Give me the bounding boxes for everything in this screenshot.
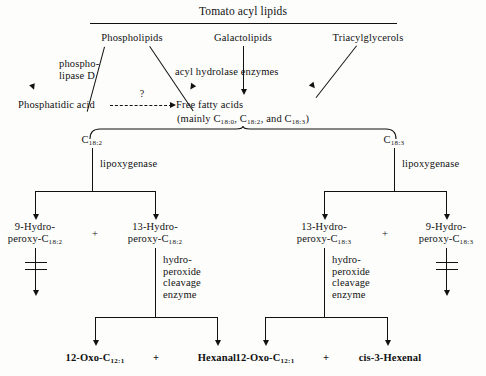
arrowhead-ffa-center (241, 89, 247, 95)
plus-sign-left: + (92, 228, 98, 239)
final-product-hexanal: Hexanal (198, 352, 236, 363)
enzyme-hydroperoxide-cleavage-left: hydro- peroxide cleavage enzyme (163, 254, 201, 300)
final-product-12-oxo-right: 12-Oxo-C12:1 (236, 352, 295, 367)
unknown-step-marker: ? (140, 88, 145, 99)
ffa-sub-2: 18:2 (247, 118, 261, 126)
bottom-bracket-right-down-1 (265, 317, 266, 342)
blocked-path-left-strike-1 (25, 262, 47, 263)
bracket-left-down-9 (35, 191, 36, 216)
enzyme-hydroperoxide-cleavage-right: hydro- peroxide cleavage enzyme (332, 254, 370, 300)
title-rule (90, 23, 397, 24)
ffa-detail-mid1: , C (234, 113, 247, 124)
split-brace (88, 126, 398, 140)
hp4-sub: 18:3 (460, 238, 474, 246)
arrowhead-9-hydroperoxy-c18-2 (33, 214, 39, 220)
diagram-title: Tomato acyl lipids (199, 6, 287, 17)
cis-prefix: cis (359, 352, 371, 363)
oxo-left-sub: 12:1 (110, 357, 124, 365)
oxo-left-prefix: 12-Oxo-C (66, 352, 111, 363)
arrowhead-9-hydroperoxy-c18-3 (444, 214, 450, 220)
product-9-hydroperoxy-c18-2: 9-Hydro- peroxy-C18:2 (8, 221, 63, 248)
hexenal-rest: -3-Hexenal (371, 352, 422, 363)
hp2-line1: 13-Hydro- (132, 221, 178, 232)
bottom-bracket-left-horizontal (95, 317, 217, 318)
arrowhead-ffa-right (309, 82, 317, 90)
arrowhead-cis-3-hexenal (385, 340, 391, 346)
ffa-detail-suffix: ) (305, 113, 309, 124)
arrowhead-13-hydroperoxy-c18-2 (153, 214, 159, 220)
blocked-path-left-strike-2 (25, 269, 47, 270)
metabolite-phosphatidic-acid: Phosphatidic acid (18, 99, 95, 110)
substrate-right-sub: 18:3 (391, 139, 405, 147)
stem-right-lipoxygenase (394, 148, 395, 192)
substrate-c18-3: C18:3 (384, 134, 405, 149)
blocked-path-right-strike-2 (436, 269, 458, 270)
enzyme-acyl-hydrolase: acyl hydrolase enzymes (175, 66, 279, 77)
bracket-right-down-9 (446, 191, 447, 216)
bottom-bracket-right-horizontal (265, 317, 387, 318)
final-product-cis-3-hexenal: cis-3-Hexenal (359, 352, 422, 363)
enzyme-lipoxygenase-left: lipoxygenase (100, 158, 157, 169)
bracket-left-horizontal (35, 191, 155, 192)
hp1-sub: 18:2 (49, 238, 63, 246)
arrowhead-phosphatidic (29, 83, 37, 91)
final-product-12-oxo-left: 12-Oxo-C12:1 (66, 352, 125, 367)
enzyme-phospholipase-d: phospho- lipase D (59, 58, 99, 81)
blocked-path-right-arrowhead (444, 290, 450, 296)
arrow-triacylglycerols-to-ffa (316, 45, 357, 98)
stem-right-cleavage (324, 248, 325, 318)
hp1-line1: 9-Hydro- (15, 221, 55, 232)
stem-left-cleavage (155, 248, 156, 318)
bracket-left-down-13 (155, 191, 156, 216)
hp1-line2: peroxy-C (8, 233, 49, 244)
bracket-right-horizontal (324, 191, 446, 192)
lipid-class-triacylglycerols: Triacylglycerols (333, 32, 404, 43)
ffa-sub-1: 18:0 (221, 118, 235, 126)
oxo-right-prefix: 12-Oxo-C (236, 352, 281, 363)
enzyme-lipoxygenase-right: lipoxygenase (402, 158, 459, 169)
product-9-hydroperoxy-c18-3: 9-Hydro- peroxy-C18:3 (419, 221, 474, 248)
hp2-line2: peroxy-C (128, 233, 169, 244)
product-13-hydroperoxy-c18-2: 13-Hydro- peroxy-C18:2 (128, 221, 183, 248)
ffa-sub-3: 18:3 (292, 118, 306, 126)
arrowhead-13-hydroperoxy-c18-3 (322, 214, 328, 220)
plus-sign-bottom-left: + (153, 352, 159, 363)
arrowhead-12-oxo-right (263, 340, 269, 346)
substrate-c18-2: C18:2 (82, 134, 103, 149)
hp3-line1: 13-Hydro- (301, 221, 347, 232)
lipid-class-galactolipids: Galactolipids (214, 32, 272, 43)
plus-sign-bottom-right: + (323, 352, 329, 363)
blocked-path-right-strike-1 (436, 262, 458, 263)
bottom-bracket-left-down-1 (95, 317, 96, 342)
blocked-path-left-arrowhead (33, 290, 39, 296)
ffa-detail-mid2: , and C (261, 113, 292, 124)
ffa-detail-prefix: (mainly C (177, 113, 221, 124)
arrowhead-12-oxo-left (93, 340, 99, 346)
stem-left-lipoxygenase (92, 148, 93, 192)
hp4-line1: 9-Hydro- (426, 221, 466, 232)
product-13-hydroperoxy-c18-3: 13-Hydro- peroxy-C18:3 (297, 221, 352, 248)
oxo-right-sub: 12:1 (280, 357, 294, 365)
bottom-bracket-right-down-2 (387, 317, 388, 342)
hp3-sub: 18:3 (338, 238, 352, 246)
bracket-right-down-13 (324, 191, 325, 216)
hp2-sub: 18:2 (169, 238, 183, 246)
arrowhead-ffa-left (188, 83, 196, 91)
hp3-line2: peroxy-C (297, 233, 338, 244)
hp4-line2: peroxy-C (419, 233, 460, 244)
plus-sign-right: + (382, 228, 388, 239)
bottom-bracket-left-down-2 (217, 317, 218, 342)
metabolite-free-fatty-acids: Free fatty acids (176, 99, 243, 110)
dashed-link-unknown-step (110, 105, 172, 106)
substrate-left-sub: 18:2 (89, 139, 103, 147)
lipid-class-phospholipids: Phospholipids (101, 32, 162, 43)
pathway-diagram: Tomato acyl lipids Phospholipids Galacto… (0, 0, 486, 376)
arrowhead-hexanal (215, 340, 221, 346)
